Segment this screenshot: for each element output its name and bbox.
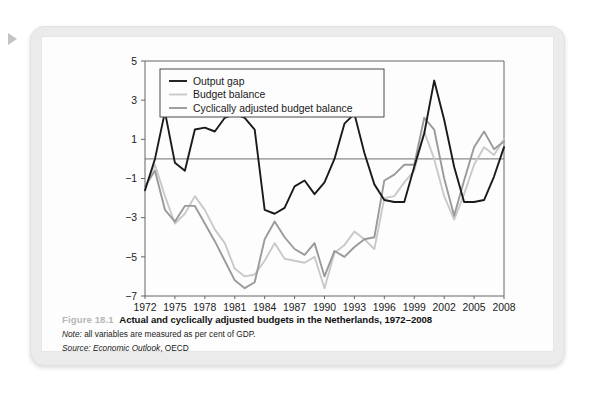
x-axis-tick-label: 2005 — [463, 302, 486, 313]
y-axis-tick-label: 5 — [131, 56, 137, 67]
source-publication: Economic Outlook — [91, 343, 161, 353]
x-axis-tick-label: 1975 — [163, 302, 186, 313]
x-axis-tick-label: 1984 — [253, 302, 276, 313]
x-axis-tick-label: 1999 — [403, 302, 426, 313]
chart-area: 531−1−3−5−719721975197819811984198719901… — [42, 37, 553, 315]
note-text: all variables are measured as per cent o… — [82, 329, 256, 339]
legend-label-3: Cyclically adjusted budget balance — [193, 103, 353, 114]
x-axis-tick-label: 2002 — [433, 302, 456, 313]
x-axis-tick-label: 2008 — [492, 302, 515, 313]
source-org: , OECD — [160, 343, 189, 353]
source-label: Source: — [62, 343, 91, 353]
x-axis-tick-label: 1990 — [313, 302, 336, 313]
note-label: Note: — [62, 329, 82, 339]
x-axis-tick-label: 1993 — [343, 302, 366, 313]
figure-note: Note: all variables are measured as per … — [62, 328, 543, 340]
figure-caption: Figure 18.1 Actual and cyclically adjust… — [62, 313, 543, 355]
x-axis-tick-label: 1987 — [283, 302, 306, 313]
figure-card: 531−1−3−5−719721975197819811984198719901… — [30, 26, 565, 366]
series-line-budget-balance — [145, 132, 504, 289]
y-axis-tick-label: −7 — [125, 291, 137, 302]
figure-inner-panel: 531−1−3−5−719721975197819811984198719901… — [41, 36, 554, 352]
y-axis-tick-label: −5 — [125, 252, 137, 263]
y-axis-tick-label: −3 — [125, 212, 137, 223]
legend-label-2: Budget balance — [193, 89, 265, 100]
x-axis-tick-label: 1972 — [133, 302, 156, 313]
y-axis-tick-label: 3 — [131, 95, 137, 106]
y-axis-tick-label: −1 — [125, 173, 137, 184]
figure-number: Figure 18.1 — [62, 314, 114, 325]
y-axis-tick-label: 1 — [131, 134, 137, 145]
page-title: Actual and cyclically adjusted budgets i… — [119, 314, 432, 325]
legend-label-1: Output gap — [193, 76, 245, 87]
figure-source: Source: Economic Outlook, OECD — [62, 342, 543, 354]
x-axis-tick-label: 1978 — [193, 302, 216, 313]
x-axis-tick-label: 1996 — [373, 302, 396, 313]
play-triangle-icon — [8, 33, 17, 45]
line-chart: 531−1−3−5−719721975197819811984198719901… — [42, 37, 557, 315]
figure-title-row: Figure 18.1 Actual and cyclically adjust… — [62, 313, 543, 326]
x-axis-tick-label: 1981 — [223, 302, 246, 313]
